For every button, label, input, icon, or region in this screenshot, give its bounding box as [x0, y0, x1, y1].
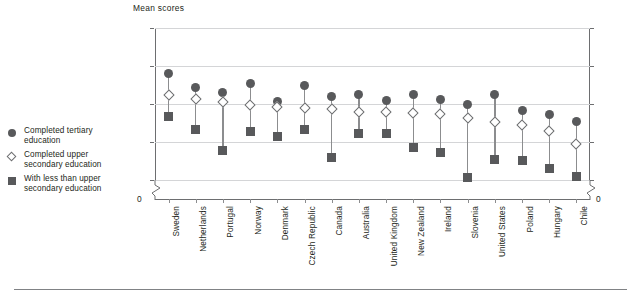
axis-tick	[590, 104, 594, 105]
chart-plot-area: 400400350350300300250250200200	[155, 28, 590, 180]
data-point-square	[354, 129, 363, 138]
x-axis-category-label: Hungary	[553, 206, 562, 238]
x-axis-category-label: Poland	[526, 206, 535, 232]
connector-line	[440, 99, 441, 152]
x-axis-category-label: Canada	[335, 206, 344, 236]
filled-square-icon	[6, 176, 24, 187]
data-point-circle	[409, 90, 418, 99]
axis-tick	[590, 28, 594, 29]
gridline	[155, 180, 590, 181]
x-axis-category-label: Norway	[254, 206, 263, 235]
data-point-square	[191, 125, 200, 134]
gridline	[155, 28, 590, 29]
x-axis-category-label: Slovenia	[471, 206, 480, 239]
open-diamond-icon	[6, 152, 24, 163]
axis-tick	[150, 104, 154, 105]
legend-label-upper-secondary: Completed upper secondary education	[24, 150, 101, 169]
x-axis-tick	[549, 199, 550, 203]
y-axis-zero-label-left: 0	[137, 194, 142, 204]
data-point-square	[327, 153, 336, 162]
data-point-square	[545, 164, 554, 173]
connector-line	[549, 115, 550, 169]
axis-tick	[150, 66, 154, 67]
data-point-square	[463, 173, 472, 182]
data-point-circle	[354, 90, 363, 99]
filled-circle-icon	[6, 128, 24, 139]
footer-rule	[14, 289, 627, 290]
x-axis-category-label: Australia	[362, 206, 371, 239]
connector-line	[413, 94, 414, 147]
axis-tick	[150, 28, 154, 29]
data-point-square	[273, 132, 282, 141]
x-axis-category-label: Portugal	[226, 206, 235, 238]
x-axis-tick	[332, 199, 333, 203]
axis-break-icon	[586, 180, 598, 200]
x-axis-tick	[277, 199, 278, 203]
data-point-square	[382, 129, 391, 138]
x-axis-tick	[223, 199, 224, 203]
x-axis-tick	[196, 199, 197, 203]
data-point-circle	[246, 79, 255, 88]
x-axis-tick	[413, 199, 414, 203]
legend-item-tertiary: Completed tertiary education	[6, 126, 128, 145]
data-point-circle	[463, 100, 472, 109]
data-point-square	[409, 143, 418, 152]
x-axis-tick	[576, 199, 577, 203]
legend-label-tertiary: Completed tertiary education	[24, 126, 93, 145]
x-axis-baseline	[155, 199, 590, 200]
x-axis-category-label: United States	[498, 206, 507, 257]
x-axis-category-label: Sweden	[172, 206, 181, 237]
data-point-square	[218, 146, 227, 155]
data-point-circle	[436, 95, 445, 104]
data-point-circle	[572, 117, 581, 126]
x-axis-category-label: Czech Republic	[308, 206, 317, 265]
data-point-square	[164, 112, 173, 121]
x-axis-tick	[468, 199, 469, 203]
x-axis-tick	[305, 199, 306, 203]
data-point-circle	[518, 106, 527, 115]
y-axis-title: Mean scores	[133, 3, 184, 13]
data-point-circle	[191, 83, 200, 92]
legend-label-less-than-upper: With less than upper secondary education	[24, 174, 101, 193]
x-axis-category-label: New Zealand	[417, 206, 426, 256]
data-point-square	[246, 127, 255, 136]
x-axis-category-label: Chile	[580, 206, 589, 225]
data-point-circle	[490, 90, 499, 99]
axis-tick	[150, 142, 154, 143]
x-axis-tick	[250, 199, 251, 203]
x-axis-tick	[522, 199, 523, 203]
data-point-square	[436, 148, 445, 157]
axis-tick	[590, 142, 594, 143]
data-point-square	[518, 156, 527, 165]
data-point-square	[300, 125, 309, 134]
axis-break-icon	[151, 180, 163, 200]
axis-tick	[590, 66, 594, 67]
x-axis-tick	[495, 199, 496, 203]
gridline	[155, 142, 590, 143]
chart-legend: Completed tertiary education Completed u…	[6, 126, 128, 199]
data-point-circle	[545, 110, 554, 119]
gridline	[155, 66, 590, 67]
x-axis-tick	[169, 199, 170, 203]
x-axis-category-label: Denmark	[281, 206, 290, 240]
data-point-square	[572, 172, 581, 181]
x-axis-tick	[440, 199, 441, 203]
legend-item-upper-secondary: Completed upper secondary education	[6, 150, 128, 169]
legend-item-less-than-upper: With less than upper secondary education	[6, 174, 128, 193]
x-axis-tick	[359, 199, 360, 203]
x-axis-category-label: Ireland	[444, 206, 453, 232]
x-axis-category-label: Netherlands	[199, 206, 208, 252]
x-axis-category-label: United Kingdom	[390, 206, 399, 266]
data-point-square	[490, 155, 499, 164]
x-axis-tick	[386, 199, 387, 203]
